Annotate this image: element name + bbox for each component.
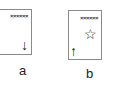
panel-b: ×××××× ☆ ↑ bbox=[68, 10, 102, 60]
marker-row: ×××××× bbox=[10, 13, 28, 19]
arrow-up-icon: ↑ bbox=[70, 44, 77, 58]
star-icon: ☆ bbox=[84, 27, 97, 41]
panel-b-label: b bbox=[86, 66, 93, 81]
panel-a-label: a bbox=[19, 63, 26, 78]
panel-a: ×××××× ↓ bbox=[0, 9, 32, 55]
marker-row: ×××××× bbox=[80, 15, 98, 21]
arrow-down-icon: ↓ bbox=[21, 38, 28, 52]
